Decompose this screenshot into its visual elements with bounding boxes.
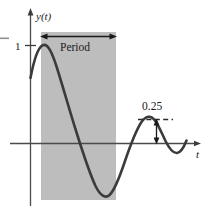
y-axis [28,8,34,206]
damped-oscillation-figure: y(t) t 1 Period 0.25 [0,0,214,215]
t-axis-label: t [196,148,200,160]
scan-artifact-mark [0,38,9,40]
y-tick-one-label: 1 [15,40,21,52]
period-label: Period [60,41,90,53]
amplitude-label: 0.25 [142,100,162,112]
figure-container: y(t) t 1 Period 0.25 [0,0,214,215]
amplitude-double-arrow [154,119,160,145]
y-axis-label: y(t) [35,10,52,23]
